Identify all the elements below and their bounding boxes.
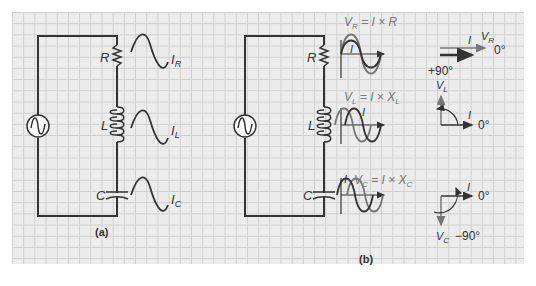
phasor-resistor: I VR 0° (440, 30, 506, 57)
phasor-inductor: +90° VL I 0° (428, 64, 490, 132)
resistor-label-b: R (307, 50, 316, 65)
waveform-resistor: I (341, 35, 384, 79)
capacitor-label-b: C (303, 188, 313, 203)
current-wave-c (131, 177, 168, 211)
phasor-l-i-angle: 0° (478, 118, 490, 132)
inductor-icon (317, 107, 331, 142)
resistor-icon (113, 45, 121, 66)
formula-vl: VL = I × XL (344, 90, 400, 106)
phasor-c-v-angle: −90° (455, 229, 480, 243)
panel-a: R L C IR IL IC (a) (27, 34, 182, 238)
ic-label: IC (171, 192, 182, 209)
caption-b: (b) (359, 253, 373, 265)
phasor-r-i: I (468, 34, 471, 46)
resistor-icon (320, 45, 328, 66)
capacitor-label: C (96, 188, 106, 203)
phasor-r-angle: 0° (494, 43, 506, 57)
waveform-inductor: I (335, 106, 384, 144)
phasor-c-v: VC (436, 230, 449, 245)
phasor-c-i-angle: 0° (478, 189, 490, 203)
resistor-label: R (100, 50, 109, 65)
phasor-l-v-angle: +90° (428, 64, 453, 78)
ac-source-icon (234, 115, 256, 137)
ac-source-icon (27, 115, 49, 137)
formula-vr: VR = I × R (344, 15, 397, 31)
inductor-label: L (101, 118, 108, 133)
inductor-label-b: L (308, 118, 315, 133)
current-wave-l (131, 110, 168, 144)
panel-b: R L C I VR = I × R I (234, 15, 506, 265)
wire-bottom (38, 138, 117, 216)
phasor-l-v: VL (436, 79, 448, 94)
current-wave-r (131, 34, 168, 68)
wave-r-i-label: I (350, 43, 353, 55)
phasor-l-i: I (468, 109, 471, 121)
il-label: IL (171, 123, 180, 140)
rlc-phase-diagram: R L C IR IL IC (a) (0, 0, 536, 286)
caption-a: (a) (95, 226, 109, 238)
wire-bottom-b (245, 138, 324, 216)
phasor-c-i: I (467, 181, 470, 193)
inductor-icon (110, 107, 124, 142)
phasor-capacitor: I 0° VC −90° (434, 181, 490, 245)
wave-c-i-label: I (344, 173, 347, 185)
ir-label: IR (171, 52, 182, 69)
formula-vc: VC = I × XC (354, 173, 413, 189)
wave-l-i-label: I (362, 106, 365, 118)
phasor-r-v: VR (481, 30, 494, 45)
